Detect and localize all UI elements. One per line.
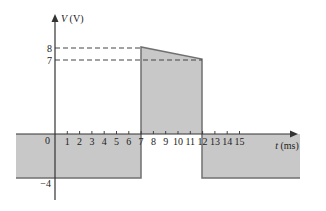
y-label-7: 7	[47, 55, 52, 66]
x-axis-unit: (ms)	[278, 140, 299, 152]
tick-label: 11	[185, 136, 195, 147]
tick-label: 7	[139, 136, 144, 147]
tick-label: 6	[126, 136, 131, 147]
y-label-8: 8	[47, 43, 52, 54]
tick-label: 15	[235, 136, 245, 147]
tick-label: 12	[198, 136, 208, 147]
tick-label: 14	[222, 136, 232, 147]
tick-label: 4	[102, 136, 107, 147]
waveform-diagram: 1 2 3 4 5 6 7 8 9 10 11 12 13 14 15 0 8 …	[0, 0, 326, 211]
y-label-neg4: −4	[40, 178, 51, 189]
x-tick-labels: 1 2 3 4 5 6 7 8 9 10 11 12 13 14 15	[65, 136, 245, 147]
tick-label: 9	[163, 136, 168, 147]
origin-label: 0	[45, 135, 50, 146]
tick-label: 3	[89, 136, 94, 147]
tick-label: 10	[173, 136, 183, 147]
tick-label: 13	[210, 136, 220, 147]
tick-label: 2	[77, 136, 82, 147]
y-axis-title: V (V)	[61, 13, 84, 25]
y-axis-arrow-icon	[52, 14, 59, 22]
tick-label: 1	[65, 136, 70, 147]
tick-label: 8	[151, 136, 156, 147]
y-axis-unit: (V)	[67, 13, 83, 25]
tick-label: 5	[114, 136, 119, 147]
x-axis-title: t (ms)	[275, 140, 299, 152]
